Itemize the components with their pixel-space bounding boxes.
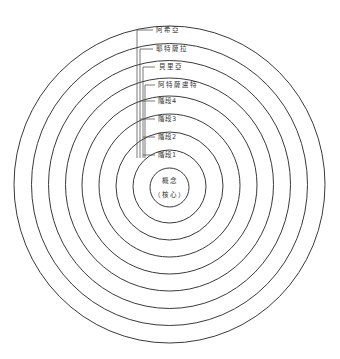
label-level-4: 階段4 [158, 97, 176, 105]
label-level-2: 階段2 [158, 133, 176, 141]
ring-core [150, 168, 189, 207]
label-level-1: 階段1 [158, 151, 176, 159]
label-level-5: 阿特薩盧特 [158, 81, 198, 89]
label-level-8: 阿希亞 [156, 26, 180, 34]
label-level-6: 貝里亞 [159, 63, 183, 71]
core-label: 概念 [150, 175, 190, 185]
ring-level-1 [133, 150, 206, 223]
label-connectors [137, 30, 155, 158]
ring-level-2 [116, 132, 223, 240]
core-sublabel: （核心） [150, 189, 190, 199]
label-level-3: 階段3 [158, 115, 176, 123]
label-level-7: 耶特薩拉 [156, 45, 188, 53]
